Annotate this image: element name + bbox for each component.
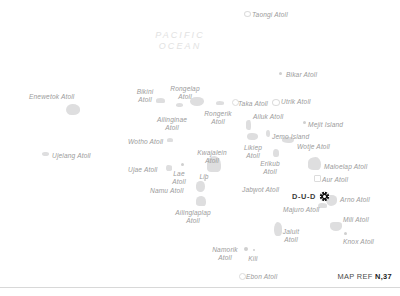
island-shape [274,222,282,236]
island-shape [344,232,347,235]
island-shape [244,11,251,17]
atoll-label: Ailinglaplap Atoll [175,209,211,224]
atoll-label: Rongerik Atoll [204,110,232,125]
atoll-label: Jemo Island [272,133,309,141]
island-shape [308,157,321,170]
island-shape [239,273,246,280]
atoll-label: Ebon Atoll [246,273,277,281]
capital-star-icon [319,191,330,202]
atoll-label: Bikini Atoll [137,88,154,103]
atoll-label: Maloelap Atoll [324,163,367,171]
capital-label-dud: D-U-D [292,192,316,201]
island-shape [303,121,306,124]
atoll-label: Mili Atoll [343,216,369,224]
atoll-label: Erikub Atoll [260,160,280,175]
island-shape [156,98,165,103]
atoll-label: Ailuk Atoll [253,113,283,121]
island-shape [166,165,172,171]
atoll-label: Bikar Atoll [286,71,317,79]
island-shape [266,130,270,137]
atoll-label: Majuro Atoll [283,206,319,214]
island-shape [216,101,224,105]
atoll-label: Lae Atoll [172,170,186,185]
island-shape [42,152,49,156]
island-shape [279,72,282,75]
atoll-label: Likiep Atoll [244,144,262,159]
map-canvas: PACIFIC OCEAN Taongi AtollEnewetok Atoll… [0,0,400,296]
island-shape [196,196,206,206]
atoll-label: Knox Atoll [343,238,374,246]
island-shape [66,104,80,115]
island-shape [246,120,251,130]
island-shape [196,181,205,192]
atoll-label: Taongi Atoll [252,11,288,19]
bottom-divider [0,287,400,288]
atoll-label: Enewetok Atoll [29,93,74,101]
atoll-label: Lib [199,173,208,181]
island-shape [167,138,173,142]
atoll-label: Ujae Atoll [128,166,157,174]
island-shape [181,163,184,166]
island-shape [176,103,183,107]
atoll-label: Jabwot Atoll [242,186,279,194]
atoll-label: Namorik Atoll [212,246,238,261]
island-shape [247,133,258,140]
atoll-label: Utrik Atoll [281,98,311,106]
atoll-label: Kwajalein Atoll [197,149,227,164]
atoll-label: Namu Atoll [150,187,184,195]
atoll-label: Kili [248,255,257,263]
atoll-label: Mejit Island [308,121,343,129]
atoll-label: Taka Atoll [238,100,268,108]
island-shape [314,175,321,182]
atoll-label: Ailinginae Atoll [157,116,187,131]
map-reference: MAP REF N,37 [337,272,392,281]
island-shape [272,99,280,106]
island-shape [330,222,342,231]
atoll-label: Rongelap Atoll [170,85,199,100]
island-shape [273,149,279,157]
map-reference-code: N,37 [375,272,392,281]
atoll-label: Wotho Atoll [128,138,163,146]
atoll-label: Aur Atoll [322,176,348,184]
atoll-label: Arno Atoll [340,196,370,204]
atoll-label: Ujelang Atoll [52,152,91,160]
ocean-label: PACIFIC OCEAN [140,30,220,52]
island-shape [253,249,255,251]
map-reference-prefix: MAP REF [337,272,375,281]
atoll-label: Jaluit Atoll [283,228,299,243]
atoll-label: Wotje Atoll [297,143,330,151]
island-shape [244,247,248,251]
